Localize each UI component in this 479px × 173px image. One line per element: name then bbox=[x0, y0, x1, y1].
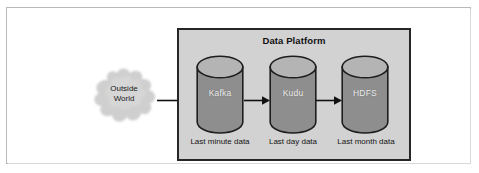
cylinder-label-kafka: Kafka bbox=[196, 88, 244, 98]
database-cylinder-icon-hdfs: HDFS bbox=[341, 55, 389, 134]
database-cylinder-icon-kafka: Kafka bbox=[196, 55, 244, 134]
caption-kafka: Last minute data bbox=[184, 137, 256, 146]
cloud-label-line1: Outside bbox=[88, 84, 160, 94]
figure-frame: Outside World Data Platform Kafka bbox=[6, 7, 471, 164]
arrow-right-icon-kudu-to-hdfs bbox=[316, 91, 342, 100]
arrow-right-icon-kafka-to-kudu bbox=[244, 91, 270, 100]
cloud-label: Outside World bbox=[88, 84, 160, 104]
database-cylinder-icon-kudu: Kudu bbox=[269, 55, 317, 134]
page-title: Data Platform bbox=[179, 35, 409, 46]
caption-kudu: Last day data bbox=[260, 137, 326, 146]
cylinder-label-kudu: Kudu bbox=[269, 88, 317, 98]
cloud-label-line2: World bbox=[88, 94, 160, 104]
caption-hdfs: Last month data bbox=[331, 137, 401, 146]
cylinder-label-hdfs: HDFS bbox=[341, 88, 389, 98]
diagram-screenshot: Outside World Data Platform Kafka bbox=[0, 0, 479, 173]
